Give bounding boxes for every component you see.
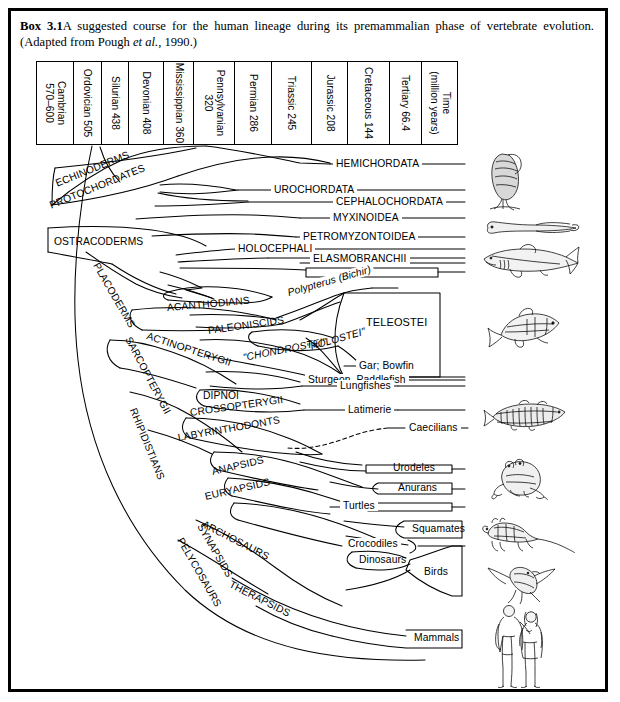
terminal-label-cephalochordata: CEPHALOCHORDATA bbox=[333, 196, 446, 207]
terminal-label-elasmobranchii: ELASMOBRANCHII bbox=[310, 253, 410, 264]
terminal-label-urochordata: UROCHORDATA bbox=[271, 184, 357, 195]
tunicate-sea-squirt-illustration bbox=[484, 150, 530, 212]
period-label-permian: Permian 286 bbox=[247, 74, 259, 132]
period-cell-tertiary: Tertiary 66.4 bbox=[390, 62, 423, 144]
time-unit-label: Time(million years) bbox=[428, 71, 451, 134]
terminal-label-gar-bowfin: Gar; Bowfin bbox=[356, 360, 417, 371]
period-cell-cretaceous: Cretaceous 144 bbox=[348, 62, 389, 144]
bird-illustration bbox=[486, 564, 556, 606]
period-label-devonian: Devonian 408 bbox=[140, 72, 152, 135]
period-cell-pennsylvanian: Pennsylvanian320 bbox=[194, 62, 235, 144]
period-cell-mississippian: Mississippian 360 bbox=[164, 62, 194, 144]
period-cell-jurassic: Jurassic 208 bbox=[312, 62, 349, 144]
period-cell-cambrian: Cambrian570–600 bbox=[37, 62, 74, 144]
frog-anuran-illustration bbox=[490, 458, 552, 500]
caption-text-2: , 1990.) bbox=[158, 35, 197, 49]
terminal-label-hemichordata: HEMICHORDATA bbox=[333, 158, 422, 169]
teleost-salmon-illustration bbox=[485, 305, 563, 351]
period-cell-silurian: Silurian 438 bbox=[102, 62, 129, 144]
terminal-label-turtles: Turtles bbox=[340, 500, 378, 511]
lizard-squamate-illustration bbox=[480, 517, 576, 553]
geologic-time-scale: Cambrian570–600Ordovician 505Silurian 43… bbox=[36, 61, 458, 145]
period-label-silurian: Silurian 438 bbox=[109, 76, 121, 130]
terminal-label-urodeles: Urodeles bbox=[393, 462, 435, 473]
terminal-label-squamates: Squamates bbox=[412, 523, 465, 534]
period-label-pennsylvanian: Pennsylvanian320 bbox=[203, 70, 226, 136]
human-couple-illustration bbox=[492, 602, 552, 688]
figure-caption: Box 3.1A suggested course for the human … bbox=[20, 18, 594, 50]
time-unit-cell: Time(million years) bbox=[422, 62, 457, 144]
caption-text-1: A suggested course for the human lineage… bbox=[20, 19, 594, 49]
shark-illustration bbox=[480, 243, 580, 279]
terminal-label-dinosaurs: Dinosaurs bbox=[359, 554, 406, 565]
caption-box-number: Box 3.1 bbox=[20, 19, 63, 33]
period-label-triassic: Triassic 245 bbox=[286, 76, 298, 131]
period-label-cambrian: Cambrian570–600 bbox=[43, 81, 66, 125]
period-cell-devonian: Devonian 408 bbox=[129, 62, 164, 144]
terminal-label-myxinoidea: MYXINOIDEA bbox=[330, 212, 402, 223]
coelacanth-latimeria-illustration bbox=[483, 399, 571, 431]
terminal-label-anurans: Anurans bbox=[398, 482, 437, 493]
terminal-label-birds: Birds bbox=[424, 566, 448, 577]
period-cell-ordovician: Ordovician 505 bbox=[74, 62, 102, 144]
period-label-mississippian: Mississippian 360 bbox=[173, 63, 185, 143]
clade-label-dipnoi: DIPNOI bbox=[203, 390, 239, 401]
terminal-label-lungfishes: Lungfishes bbox=[337, 380, 394, 391]
terminal-label-latimerie: Latimerie bbox=[345, 404, 394, 415]
figure-page: Box 3.1A suggested course for the human … bbox=[0, 0, 620, 702]
terminal-label-holocephali: HOLOCEPHALI bbox=[235, 243, 315, 254]
terminal-label-petromyzontoidea: PETROMYZONTOIDEA bbox=[300, 231, 418, 242]
period-label-cretaceous: Cretaceous 144 bbox=[363, 67, 375, 139]
hagfish-lamprey-illustration bbox=[484, 217, 580, 239]
terminal-label-teleostei: TELEOSTEI bbox=[366, 316, 427, 328]
period-label-ordovician: Ordovician 505 bbox=[81, 69, 93, 138]
period-label-tertiary: Tertiary 66.4 bbox=[400, 75, 412, 131]
terminal-label-caecilians: Caecilians bbox=[406, 422, 461, 433]
period-cell-triassic: Triassic 245 bbox=[272, 62, 312, 144]
clade-label-ostracoderms: OSTRACODERMS bbox=[54, 236, 143, 247]
caption-italic: et al. bbox=[133, 35, 158, 49]
period-cell-permian: Permian 286 bbox=[235, 62, 272, 144]
terminal-label-mammals: Mammals bbox=[414, 632, 459, 643]
terminal-label-crocodiles: Crocodiles bbox=[345, 538, 401, 549]
period-label-jurassic: Jurassic 208 bbox=[324, 74, 336, 131]
